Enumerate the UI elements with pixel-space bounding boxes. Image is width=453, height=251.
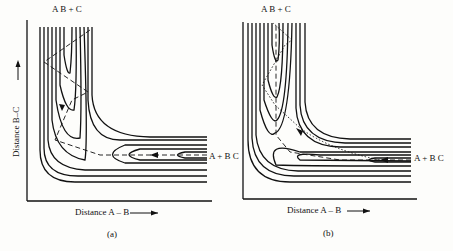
panel-b-x-axis-label: Distance A – B (287, 205, 341, 215)
potential-energy-surface-diagrams (0, 0, 453, 251)
panel-a-x-axis-label: Distance A – B (75, 207, 129, 217)
panel-b-caption: (b) (323, 228, 334, 238)
panel-a-y-axis-label: Distance B–C (11, 107, 21, 157)
panel-a-trajectory (44, 30, 207, 155)
panel-a-right-label: A + B C (209, 151, 239, 161)
panel-a-top-label: A B + C (52, 4, 82, 14)
axis-arrowheads (16, 60, 371, 216)
panel-a-caption: (a) (107, 229, 117, 239)
panel-b-right-label: A + B C (414, 153, 444, 163)
panel-a-contours (40, 27, 207, 182)
panel-b-top-label: A B + C (261, 4, 291, 14)
